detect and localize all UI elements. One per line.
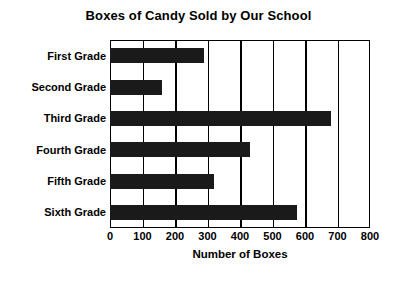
x-tick-label: 700: [328, 230, 346, 242]
x-tick-label: 400: [231, 230, 249, 242]
chart-title: Boxes of Candy Sold by Our School: [0, 8, 397, 23]
bar: [110, 205, 297, 220]
bar: [110, 111, 331, 126]
x-tick-label: 200: [166, 230, 184, 242]
category-label: Third Grade: [2, 112, 106, 124]
x-tick-label: 600: [296, 230, 314, 242]
bar: [110, 80, 162, 95]
x-axis-tick-labels: 0100200300400500600700800: [0, 230, 397, 246]
category-label: Fourth Grade: [2, 144, 106, 156]
x-tick-label: 0: [107, 230, 113, 242]
category-label: Sixth Grade: [2, 206, 106, 218]
category-label: Fifth Grade: [2, 175, 106, 187]
bars-layer: [110, 40, 370, 228]
x-tick-label: 500: [263, 230, 281, 242]
bar: [110, 174, 214, 189]
x-tick-label: 300: [198, 230, 216, 242]
bar: [110, 142, 250, 157]
bar-chart: Boxes of Candy Sold by Our School First …: [0, 0, 397, 284]
category-label: Second Grade: [2, 81, 106, 93]
x-axis-title: Number of Boxes: [110, 248, 370, 260]
x-tick-label: 100: [133, 230, 151, 242]
x-tick-label: 800: [361, 230, 379, 242]
category-label: First Grade: [2, 50, 106, 62]
category-labels: First GradeSecond GradeThird GradeFourth…: [0, 40, 106, 228]
bar: [110, 48, 204, 63]
